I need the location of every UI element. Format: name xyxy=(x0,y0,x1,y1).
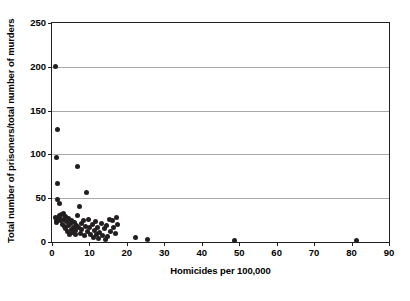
y-tick-label-0: 0 xyxy=(41,237,46,247)
gridline-y-150 xyxy=(52,111,389,112)
x-axis-title: Homicides per 100,000 xyxy=(51,265,390,276)
y-tick-250 xyxy=(48,23,52,24)
data-point xyxy=(145,237,150,242)
y-tick-150 xyxy=(48,111,52,112)
data-point xyxy=(232,238,237,243)
data-point xyxy=(133,235,138,240)
x-tick-label-60: 60 xyxy=(271,248,282,258)
data-point xyxy=(75,213,80,218)
x-tick-label-30: 30 xyxy=(159,248,170,258)
x-tick-label-50: 50 xyxy=(234,248,245,258)
y-tick-100 xyxy=(48,154,52,155)
data-point xyxy=(114,215,119,220)
data-point xyxy=(57,201,62,206)
data-point xyxy=(354,238,359,243)
x-tick-label-80: 80 xyxy=(346,248,357,258)
data-point xyxy=(73,232,78,237)
x-tick-10 xyxy=(89,242,90,246)
plot-area: 0501001502002500102030405060708090 xyxy=(51,22,390,243)
x-tick-0 xyxy=(52,242,53,246)
y-tick-50 xyxy=(48,198,52,199)
data-point xyxy=(53,64,58,69)
y-tick-label-150: 150 xyxy=(30,106,46,116)
gridline-y-100 xyxy=(52,154,389,155)
y-tick-label-100: 100 xyxy=(30,150,46,160)
scatter-plot-figure: Total number of prisoners/total number o… xyxy=(0,0,410,301)
x-tick-30 xyxy=(164,242,165,246)
gridline-y-50 xyxy=(52,198,389,199)
data-point xyxy=(55,127,60,132)
x-tick-label-70: 70 xyxy=(309,248,320,258)
data-point xyxy=(99,221,104,226)
x-tick-label-40: 40 xyxy=(196,248,207,258)
y-tick-label-50: 50 xyxy=(35,193,46,203)
x-tick-label-20: 20 xyxy=(122,248,133,258)
data-point xyxy=(93,219,98,224)
x-tick-60 xyxy=(277,242,278,246)
x-tick-80 xyxy=(352,242,353,246)
data-point xyxy=(75,164,80,169)
x-tick-label-0: 0 xyxy=(49,248,54,258)
data-point xyxy=(104,223,109,228)
x-tick-50 xyxy=(239,242,240,246)
y-axis-title: Total number of prisoners/total number o… xyxy=(3,22,19,243)
x-tick-20 xyxy=(127,242,128,246)
x-tick-label-90: 90 xyxy=(384,248,395,258)
data-point xyxy=(77,204,82,209)
data-point xyxy=(82,233,87,238)
data-point xyxy=(54,155,59,160)
data-point xyxy=(113,231,118,236)
y-tick-200 xyxy=(48,67,52,68)
x-tick-90 xyxy=(389,242,390,246)
data-point xyxy=(86,217,91,222)
x-tick-label-10: 10 xyxy=(84,248,95,258)
x-tick-70 xyxy=(314,242,315,246)
gridline-y-200 xyxy=(52,67,389,68)
data-point xyxy=(55,181,60,186)
y-tick-label-250: 250 xyxy=(30,18,46,28)
data-point xyxy=(115,222,120,227)
data-point xyxy=(84,190,89,195)
x-tick-40 xyxy=(202,242,203,246)
y-tick-label-200: 200 xyxy=(30,62,46,72)
data-point xyxy=(105,234,110,239)
